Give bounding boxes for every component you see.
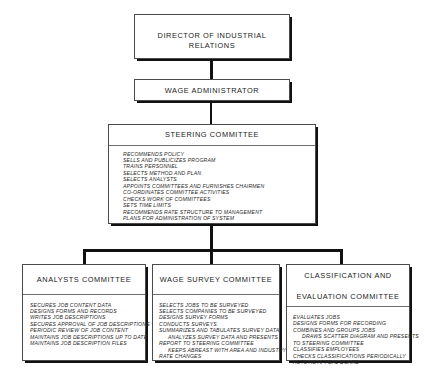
duty-item: RATE CHANGES (159, 353, 279, 359)
node-title: ANALYSTS COMMITTEE (23, 265, 145, 294)
node-classification-and-evaluation-committee: CLASSIFICATION AND EVALUATION COMMITTEE … (286, 264, 410, 361)
connector-bus-to-wage-survey (210, 249, 213, 265)
node-title-line-2: EVALUATION COMMITTEE (287, 286, 409, 307)
node-title: WAGE ADMINISTRATOR (135, 80, 289, 96)
duty-item: DRAWS SCATTER DIAGRAM AND PRESENTS (293, 333, 409, 339)
node-steering-committee: STEERING COMMITTEE RECOMMENDS POLICYSELL… (108, 124, 316, 224)
org-chart: DIRECTOR OF INDUSTRIAL RELATIONS WAGE AD… (0, 0, 425, 387)
node-title: STEERING COMMITTEE (109, 125, 315, 145)
node-title: DIRECTOR OF INDUSTRIAL RELATIONS (135, 15, 289, 50)
connector-horizontal-bus (83, 249, 343, 252)
connector-steering-to-bus (210, 223, 213, 252)
node-title: WAGE SURVEY COMMITTEE (153, 265, 279, 294)
duty-list: SECURES JOB CONTENT DATADESIGNS FORMS AN… (23, 295, 145, 347)
duty-item: SUMMARIZES AND TABULATES SURVEY DATA (159, 327, 279, 333)
duty-item: ACTS AS APPEAL BOARD (293, 359, 409, 365)
node-analysts-committee: ANALYSTS COMMITTEE SECURES JOB CONTENT D… (22, 264, 146, 361)
connector-director-to-wage-administrator (210, 58, 213, 80)
node-director-of-industrial-relations: DIRECTOR OF INDUSTRIAL RELATIONS (134, 14, 290, 59)
duty-item: MAINTAINS JOB DESCRIPTION FILES (30, 340, 145, 346)
duty-list: SELECTS JOBS TO BE SURVEYEDSELECTS COMPA… (153, 295, 279, 360)
node-wage-survey-committee: WAGE SURVEY COMMITTEE SELECTS JOBS TO BE… (152, 264, 280, 361)
connector-wage-administrator-to-steering (210, 100, 212, 125)
node-wage-administrator: WAGE ADMINISTRATOR (134, 79, 290, 101)
connector-bus-to-classification (340, 249, 343, 265)
node-title-line-1: CLASSIFICATION AND (287, 265, 409, 286)
duty-list: RECOMMENDS POLICYSELLS AND PUBLICIZES PR… (109, 146, 315, 222)
duty-list: EVALUATES JOBSDESIGNS FORMS FOR RECORDIN… (287, 307, 409, 366)
duty-item: PERIODIC REVIEW OF JOB CONTENT (30, 327, 145, 333)
duty-item: PLANS FOR ADMINISTRATION OF SYSTEM (123, 215, 315, 221)
connector-bus-to-analysts (83, 249, 86, 265)
